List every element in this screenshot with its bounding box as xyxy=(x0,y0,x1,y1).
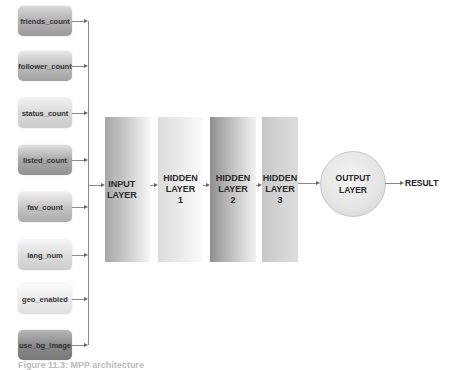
input-bus-line xyxy=(88,21,89,345)
input-label: listed_count xyxy=(23,156,67,165)
layer-label: LAYER xyxy=(216,184,251,195)
input-layer: INPUT LAYER xyxy=(105,117,150,262)
layer-label: LAYER xyxy=(163,184,198,195)
input-lang-num: lang_num xyxy=(18,240,72,270)
input-friends-count: friends_count xyxy=(18,6,72,36)
input-label: follower_count xyxy=(18,62,71,71)
input-listed-count: listed_count xyxy=(18,145,72,175)
layer-label: 1 xyxy=(163,195,198,206)
layer-label: LAYER xyxy=(107,190,137,201)
input-geo-enabled: geo_enabled xyxy=(18,284,72,314)
output-label: OUTPUT xyxy=(336,172,371,184)
connector-line xyxy=(72,299,84,300)
connector-line xyxy=(72,113,84,114)
hidden-layer-2: HIDDEN LAYER 2 xyxy=(210,117,256,262)
input-fav-count: fav_count xyxy=(18,192,72,222)
input-follower-count: follower_count xyxy=(18,51,72,81)
arrow-right-icon xyxy=(400,181,404,185)
input-label: lang_num xyxy=(27,251,62,260)
output-layer: OUTPUT LAYER xyxy=(320,151,386,217)
connector-line xyxy=(298,183,316,184)
connector-line xyxy=(72,345,84,346)
input-use-bg-image: use_bg_image xyxy=(18,330,72,360)
connector-line xyxy=(72,207,84,208)
input-label: geo_enabled xyxy=(22,295,68,304)
layer-label: 2 xyxy=(216,195,251,206)
figure-caption: Figure 11.3: MPP architecture xyxy=(18,360,144,370)
connector-line xyxy=(385,183,401,184)
result-label: RESULT xyxy=(405,178,438,188)
input-label: fav_count xyxy=(27,203,62,212)
layer-label: HIDDEN xyxy=(163,173,198,184)
connector-line xyxy=(72,21,84,22)
layer-label: 3 xyxy=(263,195,298,206)
hidden-layer-3: HIDDEN LAYER 3 xyxy=(262,117,298,262)
layer-label: LAYER xyxy=(263,184,298,195)
layer-label: INPUT xyxy=(107,179,137,190)
input-status-count: status_count xyxy=(18,98,72,128)
connector-line xyxy=(72,160,84,161)
connector-line xyxy=(88,185,101,186)
hidden-layer-1: HIDDEN LAYER 1 xyxy=(158,117,203,262)
output-label: LAYER xyxy=(336,184,371,196)
input-label: use_bg_image xyxy=(19,341,71,350)
layer-label: HIDDEN xyxy=(216,173,251,184)
input-label: friends_count xyxy=(20,17,70,26)
connector-line xyxy=(72,66,84,67)
layer-label: HIDDEN xyxy=(263,173,298,184)
input-label: status_count xyxy=(22,109,69,118)
connector-line xyxy=(72,255,84,256)
